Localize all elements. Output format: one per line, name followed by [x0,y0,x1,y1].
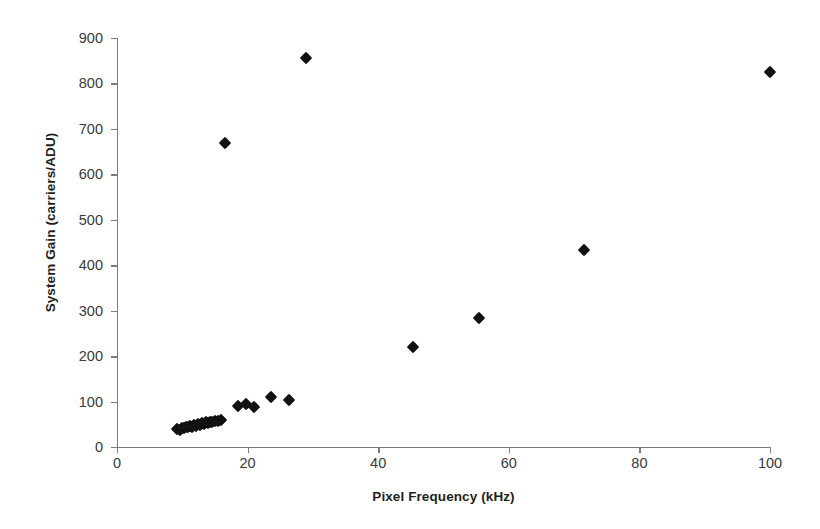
x-tick-mark [509,447,510,453]
data-point [218,137,231,150]
y-tick-mark [111,83,117,84]
y-tick-label: 900 [43,30,103,46]
y-tick-mark [111,265,117,266]
data-point [300,52,313,65]
x-tick-mark [639,447,640,453]
y-tick-label: 400 [43,257,103,273]
y-tick-mark [111,174,117,175]
y-tick-label: 500 [43,212,103,228]
data-point [265,391,278,404]
data-point [282,393,295,406]
y-tick-mark [111,38,117,39]
x-tick-label: 40 [348,455,408,471]
y-tick-mark [111,356,117,357]
y-tick-mark [111,129,117,130]
y-tick-label: 100 [43,394,103,410]
x-tick-mark [770,447,771,453]
data-point [578,243,591,256]
y-axis-line [117,38,118,448]
data-point [473,312,486,325]
y-tick-label: 200 [43,348,103,364]
x-tick-mark [378,447,379,453]
y-tick-mark [111,311,117,312]
y-tick-label: 600 [43,166,103,182]
data-point [406,341,419,354]
y-axis-tick-labels: 0100200300400500600700800900 [43,38,103,448]
data-point [764,66,777,79]
y-tick-label: 800 [43,75,103,91]
x-tick-label: 60 [479,455,539,471]
x-tick-label: 100 [740,455,800,471]
y-tick-label: 0 [43,439,103,455]
x-tick-mark [248,447,249,453]
y-tick-mark [111,220,117,221]
x-axis-line [117,447,771,448]
x-axis-title: Pixel Frequency (kHz) [117,489,770,504]
y-tick-label: 300 [43,303,103,319]
x-tick-label: 80 [609,455,669,471]
x-tick-label: 20 [218,455,278,471]
plot-area: 0100200300400500600700800900 02040608010… [117,38,770,447]
x-tick-label: 0 [87,455,147,471]
y-tick-mark [111,402,117,403]
scatter-chart-figure: System Gain (carriers/ADU) 0100200300400… [0,0,820,529]
x-tick-mark [117,447,118,453]
y-tick-label: 700 [43,121,103,137]
